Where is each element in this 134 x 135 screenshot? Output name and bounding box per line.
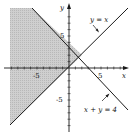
pointer-arrow-icon	[93, 25, 99, 33]
pointer-arrow-icon	[102, 94, 110, 102]
y-tick-label-neg5: -5	[56, 96, 63, 104]
shaded-region	[10, 8, 82, 125]
y-axis-label: y	[59, 4, 65, 12]
x-tick-label-neg5: -5	[33, 72, 40, 80]
label-x-plus-y-equals-4: x + y = 4	[84, 106, 117, 114]
y-axis-arrow-icon	[67, 3, 71, 9]
x-axis-label: x	[122, 72, 126, 80]
inequality-graph: -5 5 x y 5 -5	[0, 0, 134, 135]
label-y-equals-x: y = x	[89, 16, 108, 24]
x-axis-arrow-icon	[123, 66, 129, 70]
